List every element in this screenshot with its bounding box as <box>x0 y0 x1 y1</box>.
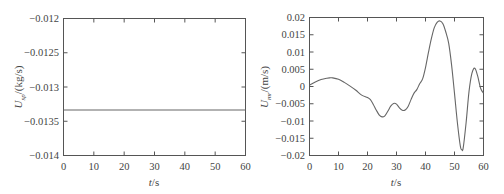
x-tick-label: 20 <box>119 161 130 172</box>
y-tick-label: −0.01 <box>281 116 305 127</box>
x-tick-label: 0 <box>307 161 312 172</box>
left-y-axis-label: Usp/(kg/s) <box>12 65 27 108</box>
y-tick-label: 0.015 <box>281 29 305 40</box>
x-tick-label: 20 <box>362 161 373 172</box>
y-tick-label: 0 <box>300 81 305 92</box>
x-tick-label: 60 <box>240 161 251 172</box>
right-plot-frame <box>310 18 484 156</box>
x-tick-label: 10 <box>333 161 344 172</box>
x-tick-label: 10 <box>89 161 100 172</box>
x-tick-label: 60 <box>478 161 489 172</box>
y-tick-label: −0.0125 <box>24 47 59 58</box>
left-plot-frame <box>64 19 246 156</box>
x-tick-label: 50 <box>449 161 460 172</box>
left-chart: 0102030405060 −0.012−0.0125−0.013−0.0135… <box>12 13 251 188</box>
left-x-axis-label: t/s <box>149 176 159 188</box>
y-tick-label: −0.015 <box>275 133 305 144</box>
figure: 0102030405060 −0.012−0.0125−0.013−0.0135… <box>0 0 504 194</box>
y-tick-label: 0.005 <box>281 64 305 75</box>
y-tick-label: −0.014 <box>29 150 59 161</box>
x-tick-label: 0 <box>61 161 66 172</box>
left-y-ticks: −0.012−0.0125−0.013−0.0135−0.014 <box>24 13 245 161</box>
y-tick-label: −0.013 <box>29 82 59 93</box>
right-chart: 0102030405060 0.020.0150.010.0050−0.005−… <box>258 12 489 188</box>
right-x-ticks: 0102030405060 <box>307 18 489 173</box>
right-y-axis-label: Umr/(m/s) <box>258 66 273 108</box>
right-series-line <box>310 21 484 151</box>
left-x-ticks: 0102030405060 <box>61 19 251 173</box>
y-tick-label: −0.02 <box>281 150 305 161</box>
x-tick-label: 40 <box>180 161 191 172</box>
right-x-axis-label: t/s <box>391 176 401 188</box>
x-tick-label: 50 <box>210 161 221 172</box>
y-tick-label: 0.01 <box>287 47 305 58</box>
y-tick-label: −0.012 <box>29 13 59 24</box>
y-tick-label: −0.005 <box>275 98 305 109</box>
y-tick-label: 0.02 <box>287 12 305 23</box>
x-tick-label: 30 <box>149 161 160 172</box>
right-y-ticks: 0.020.0150.010.0050−0.005−0.01−0.015−0.0… <box>275 12 483 161</box>
x-tick-label: 40 <box>420 161 431 172</box>
x-tick-label: 30 <box>391 161 402 172</box>
y-tick-label: −0.0135 <box>24 116 59 127</box>
